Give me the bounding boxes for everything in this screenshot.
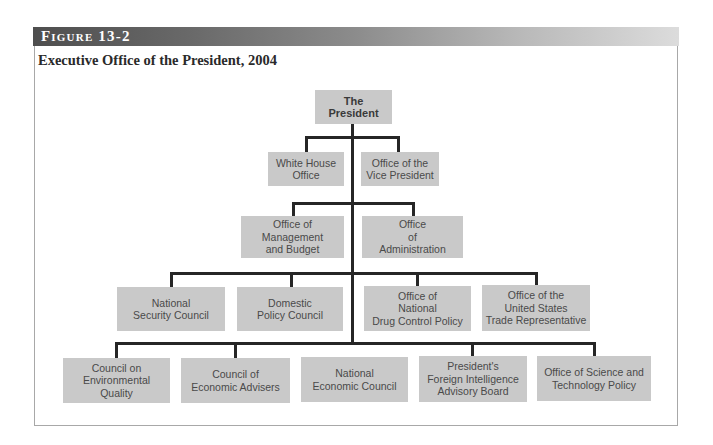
connector-level4 <box>115 342 596 345</box>
figure-header-bar: Figure 13-2 <box>33 27 679 46</box>
connector-drop <box>292 202 295 217</box>
node-council-on-environmental-quality: Council on Environmental Quality <box>63 358 170 403</box>
connector-drop <box>115 342 118 359</box>
node-council-of-economic-advisers: Council of Economic Advisers <box>181 358 290 403</box>
connector-drop <box>290 272 293 288</box>
node-national-security-council: National Security Council <box>117 287 225 331</box>
node-office-of-management-and-budget: Office of Management and Budget <box>241 216 344 258</box>
connector-trunk <box>351 124 354 344</box>
node-office-of-science-and-technology-policy: Office of Science and Technology Policy <box>537 356 651 401</box>
connector-drop <box>234 342 237 359</box>
figure-title: Executive Office of the President, 2004 <box>38 52 277 69</box>
node-office-of-vice-president: Office of the Vice President <box>361 152 439 186</box>
connector-drop <box>412 202 415 217</box>
connector-drop <box>416 272 419 287</box>
node-office-of-national-drug-control-policy: Office of National Drug Control Policy <box>364 286 471 331</box>
connector-drop <box>170 272 173 288</box>
connector-drop <box>397 136 400 153</box>
node-us-trade-representative: Office of the United States Trade Repres… <box>482 285 590 331</box>
connector-drop <box>305 136 308 153</box>
node-presidents-foreign-intelligence-advisory-board: President's Foreign Intelligence Advisor… <box>419 356 527 402</box>
node-white-house-office: White House Office <box>268 152 344 186</box>
connector-drop <box>471 342 474 357</box>
connector-drop <box>593 342 596 357</box>
node-the-president: The President <box>315 90 392 124</box>
figure-label: Figure 13-2 <box>41 28 131 45</box>
node-domestic-policy-council: Domestic Policy Council <box>237 287 343 331</box>
connector-level2 <box>292 202 415 205</box>
node-national-economic-council: National Economic Council <box>301 357 408 402</box>
connector-level1 <box>305 136 400 139</box>
connector-level3 <box>170 272 538 275</box>
node-office-of-administration: Office of Administration <box>362 216 463 258</box>
connector-drop <box>535 272 538 286</box>
